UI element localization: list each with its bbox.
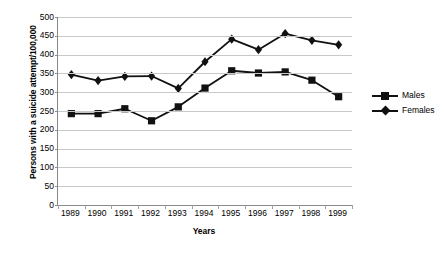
chart-legend: MalesFemales (372, 88, 442, 118)
y-tick-label-350: 350 (22, 68, 54, 79)
legend-label: Males (398, 90, 425, 101)
x-axis-tick-labels: 1989199019911992199319941995199619971998… (57, 208, 351, 222)
legend-swatch-males (372, 90, 398, 102)
y-tick-label-50: 50 (22, 181, 54, 192)
y-tick-label-250: 250 (22, 106, 54, 117)
legend-marker-square-icon (381, 92, 389, 100)
gridline-450 (58, 36, 352, 37)
y-tick-label-450: 450 (22, 30, 54, 41)
series-females (68, 29, 342, 93)
y-tick-label-200: 200 (22, 124, 54, 135)
y-axis-tick-500 (55, 17, 58, 18)
gridline-50 (58, 186, 352, 187)
legend-item-females[interactable]: Females (372, 103, 442, 118)
legend-marker-diamond-icon (380, 106, 390, 116)
gridline-250 (58, 111, 352, 112)
data-point-females-1989 (68, 70, 75, 79)
y-axis-tick-400 (55, 55, 58, 56)
y-axis-tick-150 (55, 149, 58, 150)
x-axis-title: Years (57, 226, 351, 236)
gridline-150 (58, 149, 352, 150)
y-tick-label-300: 300 (22, 87, 54, 98)
y-axis-tick-300 (55, 92, 58, 93)
gridline-400 (58, 55, 352, 56)
gridline-0 (58, 205, 352, 206)
legend-swatch-females (372, 105, 398, 117)
line-chart: Persons with a suicide attempt/100,000 0… (0, 0, 444, 259)
y-axis-tick-labels: 050100150200250300350400450500 (22, 11, 54, 211)
y-tick-label-500: 500 (22, 12, 54, 23)
y-tick-label-100: 100 (22, 162, 54, 173)
x-tick-label-1999: 1999 (318, 208, 358, 219)
y-tick-label-0: 0 (22, 200, 54, 211)
data-point-males-1999 (335, 93, 342, 100)
y-tick-label-400: 400 (22, 49, 54, 60)
y-axis-tick-450 (55, 36, 58, 37)
y-axis-tick-100 (55, 167, 58, 168)
data-point-females-1996 (255, 45, 262, 54)
y-axis-tick-350 (55, 73, 58, 74)
series-males (68, 67, 342, 124)
data-point-males-1997 (282, 68, 289, 75)
gridline-500 (58, 17, 352, 18)
data-point-males-1992 (148, 117, 155, 124)
gridline-200 (58, 130, 352, 131)
legend-item-males[interactable]: Males (372, 88, 442, 103)
gridline-350 (58, 73, 352, 74)
y-axis-tick-200 (55, 130, 58, 131)
data-point-females-1999 (335, 40, 342, 49)
gridline-100 (58, 167, 352, 168)
data-point-males-1998 (308, 77, 315, 84)
data-point-males-1994 (201, 84, 208, 91)
data-point-females-1998 (308, 36, 315, 45)
gridline-300 (58, 92, 352, 93)
data-point-females-1990 (95, 76, 102, 85)
data-point-males-1993 (175, 103, 182, 110)
y-axis-tick-50 (55, 186, 58, 187)
plot-area (57, 17, 352, 205)
legend-label: Females (398, 105, 435, 116)
y-tick-label-150: 150 (22, 143, 54, 154)
y-axis-tick-250 (55, 111, 58, 112)
